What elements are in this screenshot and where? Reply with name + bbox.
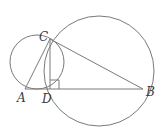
small-circle (10, 35, 64, 89)
diagram-canvas (0, 0, 164, 127)
geometry-figure: C A D B (0, 0, 164, 127)
large-circle (44, 16, 154, 126)
point-label-a: A (17, 92, 26, 104)
point-label-d: D (42, 93, 52, 105)
point-label-b: B (146, 86, 155, 98)
point-label-c: C (39, 31, 48, 43)
segment-ac (25, 39, 50, 89)
